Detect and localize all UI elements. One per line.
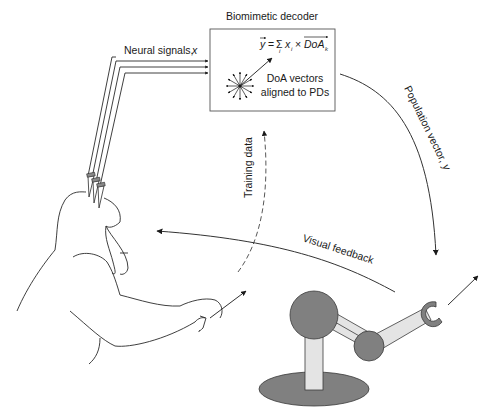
population-vector-var: y (440, 161, 454, 173)
bmi-diagram: Biomimetic decoder y = Σ i x i × DoA k D… (0, 0, 494, 419)
neural-signals-var: x (191, 44, 198, 56)
doa-caption-line1: DoA vectors (267, 72, 324, 84)
robot-movement-arrow (448, 276, 478, 305)
neural-signals-label: Neural signals, x (124, 44, 198, 56)
monkey-outline-icon (17, 192, 222, 364)
formula-times: × (295, 38, 301, 50)
training-data-label: Training data (242, 137, 254, 198)
electrode-icon (87, 172, 106, 208)
formula-doa: DoA (304, 38, 324, 50)
neural-signals-text: Neural signals, (124, 44, 193, 56)
visual-feedback-label: Visual feedback (301, 231, 376, 265)
hand-movement-arrow (210, 291, 246, 318)
doa-caption-line2: aligned to PDs (261, 86, 329, 98)
formula-equals: = (268, 38, 274, 50)
population-vector-text: Population vector, (402, 84, 449, 164)
population-vector-label: Population vector, y (402, 84, 454, 173)
robot-arm-icon (259, 291, 442, 406)
decoder-title: Biomimetic decoder (226, 10, 319, 22)
formula-x: x (284, 38, 291, 50)
formula-y: y (259, 38, 266, 50)
neural-signal-wires (88, 57, 208, 186)
